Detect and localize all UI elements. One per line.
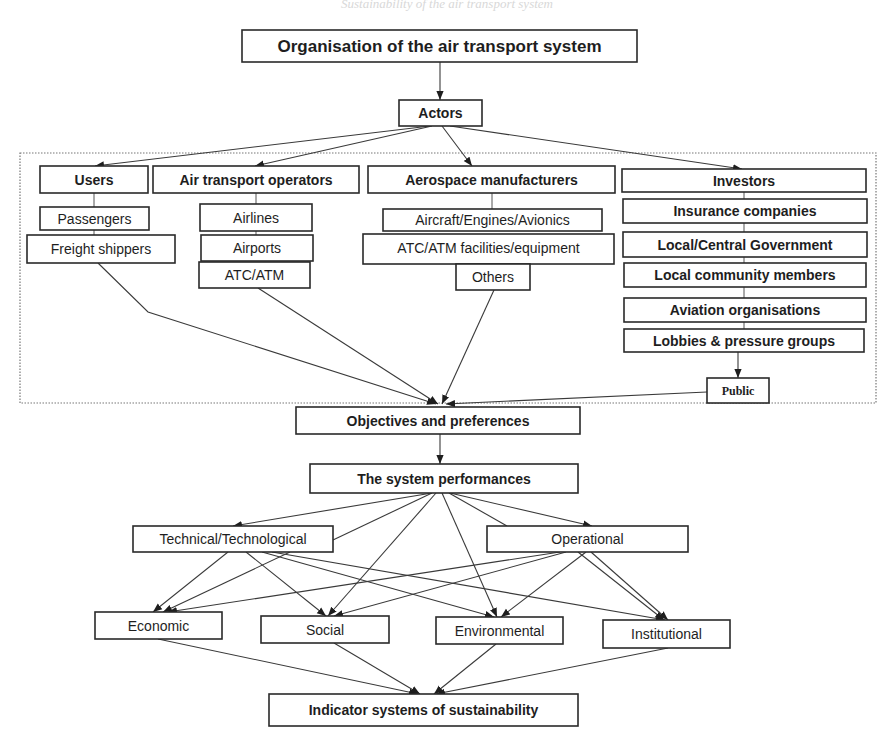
users-box: Users [40,166,148,193]
airlines-box: Airlines [200,204,312,231]
aviation-orgs-label: Aviation organisations [670,302,821,318]
performances-label: The system performances [357,471,531,487]
edge-perf-operational-side [449,493,507,526]
passengers-box: Passengers [40,207,149,230]
environmental-label: Environmental [455,623,545,639]
diagram-title: Organisation of the air transport system [277,37,601,56]
edge-op-social [334,552,566,616]
edge-perf-operational [450,493,592,526]
title-box: Organisation of the air transport system [242,30,637,62]
indicator-label: Indicator systems of sustainability [309,702,539,718]
edge-tech-economic-1 [153,552,228,612]
public-box: Public [707,378,769,403]
atc-atm-box: ATC/ATM [199,262,310,288]
investors-box: Investors [622,169,866,192]
edge-actors-operators [255,126,432,166]
indicator-box: Indicator systems of sustainability [269,694,578,726]
edge-manufacturers-objectives [442,290,494,404]
edge-actors-manufacturers [442,126,472,166]
actors-label: Actors [418,105,463,121]
economic-label: Economic [128,618,189,634]
edge-perf-social [328,493,436,616]
operational-box: Operational [487,526,688,552]
objectives-box: Objectives and preferences [296,407,580,434]
social-label: Social [306,622,344,638]
edge-operators-objectives [258,288,438,404]
environmental-box: Environmental [436,617,563,644]
institutional-box: Institutional [603,620,730,648]
economic-box: Economic [95,612,222,639]
community-box: Local community members [624,263,866,287]
social-box: Social [261,616,389,643]
edge-op-environmental [501,552,586,617]
edge-economic-indicator [158,639,418,694]
government-box: Local/Central Government [623,232,867,257]
actors-box: Actors [399,100,482,126]
edge-tech-social [246,552,326,616]
operational-label: Operational [551,531,623,547]
edges [94,62,744,694]
atc-facilities-label: ATC/ATM facilities/equipment [397,240,579,256]
edge-environmental-indicator [434,644,496,694]
institutional-label: Institutional [631,626,702,642]
others-box: Others [456,264,530,290]
objectives-label: Objectives and preferences [347,413,530,429]
edge-perf-environmental [442,493,497,617]
aircraft-engines-box: Aircraft/Engines/Avionics [383,209,602,231]
community-label: Local community members [654,267,835,283]
atc-facilities-box: ATC/ATM facilities/equipment [363,234,614,264]
manufacturers-label: Aerospace manufacturers [405,172,578,188]
air-transport-organisation-diagram: Sustainability of the air transport syst… [0,0,894,755]
public-label: Public [722,384,755,398]
edge-op-institutional-2 [591,552,668,620]
operators-box: Air transport operators [153,166,359,193]
performances-box: The system performances [310,464,578,493]
aircraft-engines-label: Aircraft/Engines/Avionics [415,212,570,228]
page-header: Sustainability of the air transport syst… [341,0,553,11]
government-label: Local/Central Government [657,237,832,253]
operators-label: Air transport operators [179,172,332,188]
atc-atm-label: ATC/ATM [225,267,284,283]
airports-box: Airports [201,235,313,261]
edge-actors-users [95,126,430,166]
freight-shippers-label: Freight shippers [51,241,151,257]
users-label: Users [75,172,114,188]
passengers-label: Passengers [58,211,132,227]
edge-perf-technical [233,493,432,526]
freight-shippers-box: Freight shippers [27,235,175,263]
edge-institutional-indicator [436,648,668,694]
airports-label: Airports [233,240,281,256]
manufacturers-box: Aerospace manufacturers [368,166,615,193]
technical-label: Technical/Technological [159,531,306,547]
insurance-label: Insurance companies [673,203,816,219]
lobbies-box: Lobbies & pressure groups [624,329,864,352]
edge-actors-investors [450,126,742,169]
others-label: Others [472,269,514,285]
insurance-box: Insurance companies [623,199,867,223]
airlines-label: Airlines [233,210,279,226]
edge-op-institutional-1 [578,552,664,620]
technical-box: Technical/Technological [133,526,333,552]
edge-perf-technical-side [333,493,432,540]
edge-social-indicator [334,643,420,694]
aviation-orgs-box: Aviation organisations [624,298,866,322]
edge-public-objectives [446,392,707,404]
lobbies-label: Lobbies & pressure groups [653,333,835,349]
investors-label: Investors [713,173,775,189]
